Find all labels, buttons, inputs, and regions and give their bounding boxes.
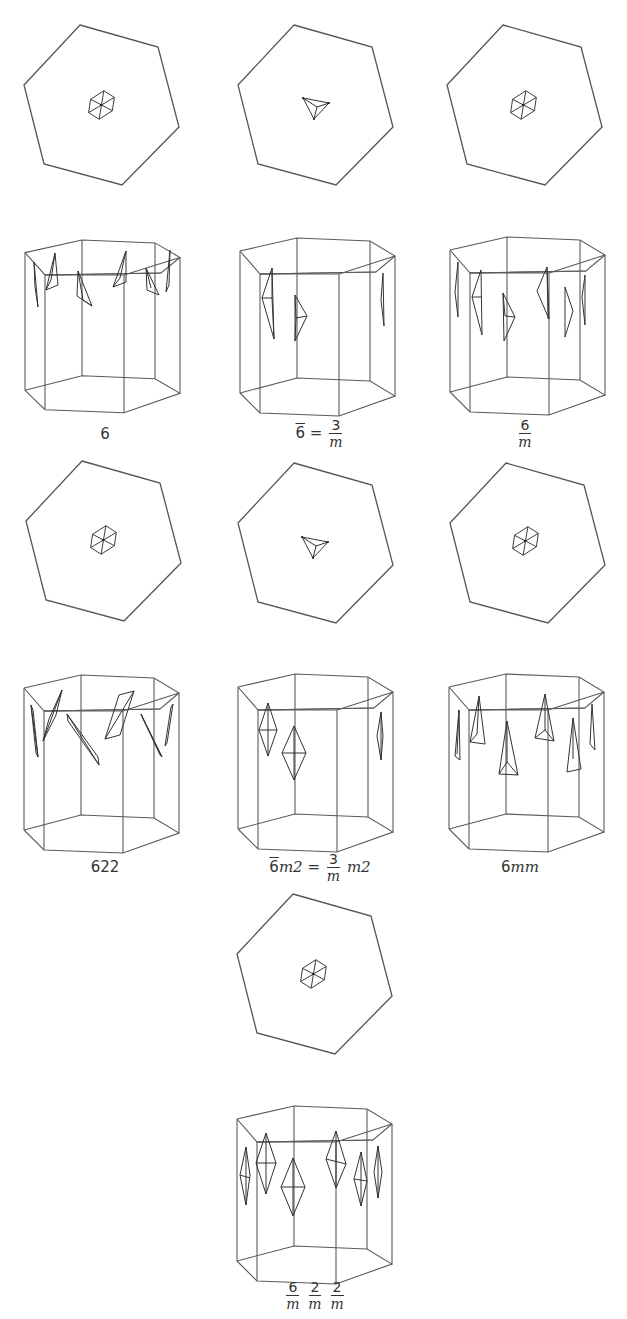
- label-class-6mm: 6mm: [470, 858, 570, 876]
- label-text: 622: [91, 858, 120, 876]
- prism-view-6: [25, 240, 185, 420]
- denominator: m: [286, 1296, 299, 1311]
- denominator: m: [329, 434, 342, 449]
- label-class-622: 622: [60, 858, 150, 876]
- prism-view-6mm: [449, 674, 609, 854]
- label-italic: mm: [511, 858, 539, 876]
- label-number: 6: [501, 858, 511, 876]
- fraction: 6 m: [518, 418, 531, 449]
- top-view-6mmm: [237, 894, 393, 1056]
- threefold-inversion-icon: [302, 97, 330, 120]
- label-class-6bar: 6 = 3 m: [250, 418, 390, 449]
- fraction-1: 6 m: [286, 1280, 299, 1311]
- top-view-6bar: [238, 25, 394, 187]
- sixfold-axis-icon: [301, 960, 327, 989]
- denominator: m: [518, 434, 531, 449]
- numerator: 6: [519, 418, 532, 434]
- prism-view-6barm2: [238, 674, 398, 854]
- denominator: m: [330, 1296, 343, 1311]
- label-class-6: 6: [65, 425, 145, 443]
- numerator: 2: [309, 1280, 322, 1296]
- numerator: 3: [327, 852, 340, 868]
- label-lhs: 6: [296, 424, 306, 442]
- label-text: 6: [100, 425, 110, 443]
- top-view-6barm2: [238, 463, 394, 625]
- label-equals: =: [307, 858, 320, 876]
- label-rhs-suffix: m2: [347, 858, 371, 876]
- sixfold-axis-icon: [513, 527, 539, 556]
- prism-view-6mmm: [237, 1106, 397, 1286]
- top-view-6: [24, 25, 180, 187]
- fraction: 3 m: [329, 418, 342, 449]
- fraction-2: 2 m: [308, 1280, 321, 1311]
- denominator: m: [327, 868, 340, 883]
- label-equals: =: [310, 424, 323, 442]
- label-class-6mmm: 6 m 2 m 2 m: [255, 1280, 375, 1311]
- sixfold-axis-icon: [89, 91, 115, 120]
- label-lhs-suffix: m2: [279, 858, 303, 876]
- top-view-6mm: [450, 463, 606, 625]
- denominator: m: [308, 1296, 321, 1311]
- fraction-3: 2 m: [330, 1280, 343, 1311]
- sixfold-axis-icon: [511, 91, 537, 120]
- prism-view-6m: [450, 237, 610, 417]
- label-lhs: 6: [269, 858, 279, 876]
- sixfold-axis-icon: [91, 526, 117, 555]
- top-view-622: [26, 461, 182, 623]
- prism-view-6bar: [240, 238, 400, 418]
- numerator: 2: [331, 1280, 344, 1296]
- prism-view-622: [24, 675, 184, 855]
- numerator: 6: [286, 1280, 299, 1296]
- numerator: 3: [329, 418, 342, 434]
- fraction: 3 m: [327, 852, 340, 883]
- threefold-inversion-icon: [301, 536, 329, 559]
- label-class-6m: 6 m: [485, 418, 565, 449]
- top-view-6m: [447, 25, 603, 187]
- label-class-6barm2: 6m2 = 3 m m2: [240, 852, 400, 883]
